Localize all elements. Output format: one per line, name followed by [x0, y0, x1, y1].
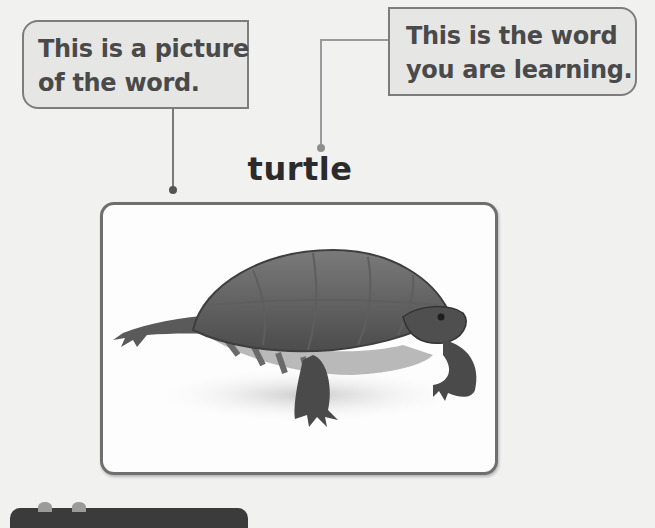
sprout-icon	[72, 502, 86, 512]
section-banner	[10, 508, 248, 528]
picture-callout-line-2: of the word.	[38, 66, 235, 100]
word-callout: This is the word you are learning.	[388, 7, 637, 96]
word-connector-vertical	[320, 39, 322, 147]
word-callout-line-1: This is the word	[406, 19, 623, 53]
turtle-image	[103, 205, 495, 472]
vocabulary-word: turtle	[230, 150, 370, 188]
word-connector-horizontal	[320, 39, 388, 41]
picture-connector-dot	[169, 186, 177, 194]
picture-connector-line	[172, 108, 174, 190]
picture-frame	[100, 202, 498, 475]
picture-callout-line-1: This is a picture	[38, 32, 235, 66]
sprout-icon	[38, 502, 52, 512]
word-callout-line-2: you are learning.	[406, 53, 623, 87]
picture-callout: This is a picture of the word.	[22, 20, 249, 109]
